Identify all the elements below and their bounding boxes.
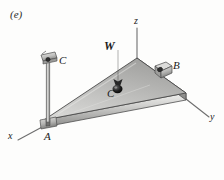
point-label-c-cg: C [107, 88, 114, 99]
cable-ca [46, 62, 50, 122]
axis-y [186, 99, 209, 117]
point-label-b: B [173, 60, 180, 71]
figure-panel: (e) z y x A B C C W [0, 0, 224, 180]
axis-label-x: x [8, 131, 12, 141]
point-label-a: A [44, 131, 51, 142]
axis-label-z: z [134, 16, 138, 26]
axis-x [18, 126, 44, 140]
part-label: (e) [10, 9, 22, 20]
anchor-bracket-c [41, 51, 57, 64]
point-label-c-top: C [59, 55, 66, 66]
force-label-w: W [104, 40, 115, 52]
axis-label-y: y [210, 112, 214, 122]
